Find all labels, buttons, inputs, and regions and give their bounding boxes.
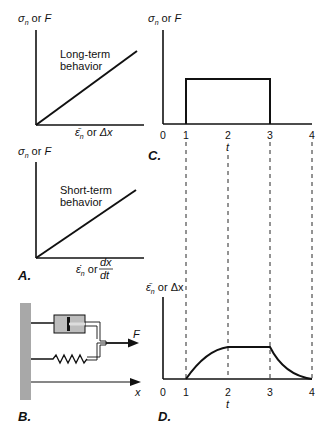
tick-2: 2 — [225, 129, 231, 141]
panel-label-a: A. — [17, 268, 31, 283]
strain-curve — [186, 347, 312, 379]
y-axis-label-d: ε̄n or Δx — [146, 281, 184, 295]
chart-step-load: σn or F 0 1 2 3 4 t C. — [148, 12, 315, 163]
tick-1: 1 — [183, 386, 189, 398]
figure-canvas: σn or F Long-term behavior ε̄n or Δx σn … — [0, 0, 327, 436]
annotation-behavior: behavior — [60, 60, 103, 72]
tick-0: 0 — [160, 129, 166, 141]
displacement-arrow-head — [130, 378, 141, 386]
x-axis-label-c: t — [226, 141, 230, 153]
annotation-short-term: Short-term — [60, 184, 112, 196]
y-axis-label-short-term: σn or F — [18, 145, 52, 159]
chart-long-term: σn or F Long-term behavior ε̄n or Δx — [18, 12, 144, 140]
fraction-denominator: dt — [100, 269, 110, 281]
tick-0: 0 — [160, 386, 166, 398]
x-axis-label-long-term: ε̄n or Δx — [75, 126, 113, 140]
fraction-numerator: dx — [100, 256, 112, 268]
displacement-label: x — [134, 386, 141, 398]
chart-short-term: σn or F Short-term behavior ε̇n or dx dt… — [17, 145, 144, 283]
chart-strain-response: ε̄n or Δx 0 1 2 3 4 t D. — [146, 281, 315, 424]
annotation-behavior: behavior — [60, 196, 103, 208]
x-axis-label-short-term: ε̇n or — [76, 263, 98, 277]
y-axis-label-long-term: σn or F — [18, 12, 52, 26]
panel-label-c: C. — [148, 148, 161, 163]
tick-4: 4 — [309, 129, 315, 141]
annotation-long-term: Long-term — [60, 48, 110, 60]
tick-3: 3 — [267, 386, 273, 398]
tick-1: 1 — [183, 129, 189, 141]
spring — [31, 355, 87, 363]
tick-4: 4 — [309, 386, 315, 398]
y-axis-label-c: σn or F — [148, 12, 182, 26]
frame-bottom — [87, 343, 106, 360]
tick-3: 3 — [267, 129, 273, 141]
mechanical-model: F x B. — [18, 303, 141, 424]
force-label: F — [133, 328, 141, 340]
panel-label-d: D. — [158, 409, 171, 424]
tick-2: 2 — [225, 386, 231, 398]
guide-lines — [186, 142, 312, 379]
frame-top — [85, 322, 106, 341]
x-axis-label-d: t — [226, 398, 230, 410]
panel-label-b: B. — [18, 409, 31, 424]
step-load-curve — [186, 79, 270, 124]
wall — [20, 303, 31, 400]
